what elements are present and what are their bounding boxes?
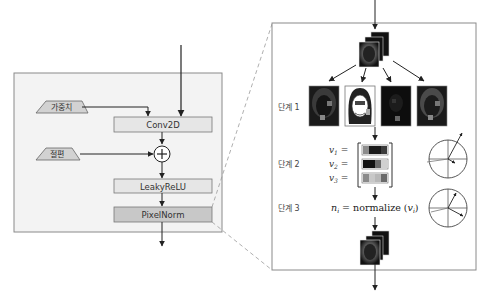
svg-text:v1 =: v1 = — [329, 145, 348, 156]
vector-v2 — [362, 159, 388, 169]
channel-image-1 — [309, 86, 339, 126]
channel-image-3 — [381, 86, 411, 126]
conv2d-layer: Conv2D — [114, 117, 212, 132]
step-3-label: 단계 3 — [278, 203, 300, 213]
leakyrelu-label: LeakyReLU — [140, 182, 186, 192]
vector-space-circle-normalized — [429, 189, 467, 227]
left-panel: 가중치 Conv2D 절편 LeakyReLU — [14, 45, 222, 246]
channel-image-4 — [417, 86, 447, 126]
bias-label: 절편 — [50, 149, 64, 159]
vector-labels: v1 = v2 = v3 = — [329, 145, 348, 184]
diagram-canvas: 가중치 Conv2D 절편 LeakyReLU — [0, 0, 489, 295]
step-2-label: 단계 2 — [278, 159, 300, 169]
vector-v3 — [362, 173, 388, 183]
svg-text:v2 =: v2 = — [329, 159, 348, 170]
leakyrelu-layer: LeakyReLU — [114, 179, 212, 193]
weights-label: 가중치 — [51, 103, 72, 112]
vector-v1 — [362, 145, 388, 155]
channel-image-2 — [345, 86, 375, 126]
conv2d-label: Conv2D — [146, 120, 180, 130]
normalize-formula: ni = normalize (vi) — [331, 202, 419, 214]
pixelnorm-layer: PixelNorm — [114, 207, 212, 222]
pixelnorm-label: PixelNorm — [142, 210, 185, 220]
right-panel: 단계 1 — [272, 0, 476, 290]
svg-text:v3 =: v3 = — [329, 173, 348, 184]
step-1-label: 단계 1 — [278, 102, 300, 112]
add-node — [154, 146, 170, 162]
